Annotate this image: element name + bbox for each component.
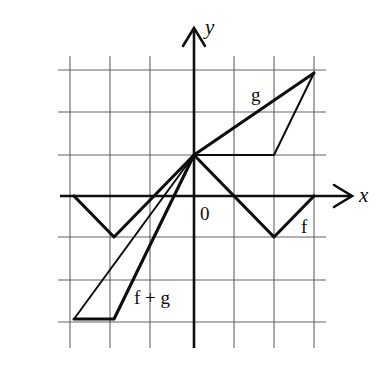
curve-label-f: f <box>301 217 307 236</box>
figure-canvas: y x 0 g f f + g <box>0 0 388 370</box>
curve-label-g: g <box>251 85 261 104</box>
curve-label-f-plus-g: f + g <box>134 288 170 307</box>
y-axis-label: y <box>205 17 214 38</box>
origin-label: 0 <box>200 204 210 223</box>
grid-lines <box>58 56 326 348</box>
x-axis-label: x <box>359 185 368 206</box>
graph-svg <box>0 0 388 370</box>
